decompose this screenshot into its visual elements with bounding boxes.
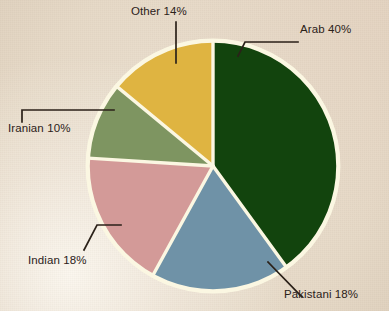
pie-label-arab: Arab 40% (300, 23, 351, 35)
pie-label-indian: Indian 18% (28, 254, 87, 266)
pie-label-other: Other 14% (131, 5, 187, 17)
pie-chart-figure: Arab 40% Pakistani 18% Indian 18% Irania… (0, 0, 389, 311)
pie-label-pakistani: Pakistani 18% (284, 288, 358, 300)
pie-label-iranian: Iranian 10% (8, 122, 70, 134)
